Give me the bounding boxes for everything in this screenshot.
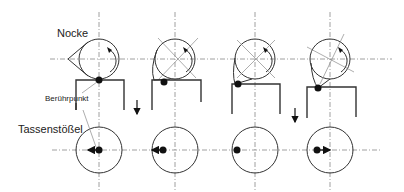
- tappet-label: Tassenstößel: [18, 123, 83, 135]
- tappet-body: [152, 80, 201, 110]
- tappet-body: [307, 87, 356, 118]
- contact-leader-line: [82, 82, 97, 93]
- contact-point-top-dot: [314, 147, 321, 154]
- cam-tappet-diagram: Nocke Berührpunkt Tassenstößel: [0, 0, 404, 192]
- stage-3: [232, 12, 280, 190]
- tappet-body: [232, 84, 280, 114]
- rotation-arrow-icon: [266, 50, 272, 72]
- rotation-arrowhead-icon: [338, 47, 343, 53]
- rotation-arrow-icon: [341, 50, 347, 72]
- contact-point-top-dot: [96, 147, 103, 154]
- rotation-arrow-icon: [110, 50, 116, 72]
- contact-point-top-dot: [234, 147, 241, 154]
- cam-lobe: [234, 58, 253, 84]
- contact-point-dot: [161, 79, 168, 86]
- cam-lobe: [311, 63, 330, 88]
- cam-label: Nocke: [57, 27, 88, 39]
- stage-2: [152, 12, 201, 190]
- tappet-leader-line: [83, 110, 96, 147]
- contact-point-dot: [315, 85, 322, 92]
- cam-diagonal-line: [158, 38, 196, 78]
- cam-lobe: [153, 50, 170, 80]
- rotation-arrowhead-icon: [183, 47, 188, 53]
- stage-4: [307, 12, 356, 190]
- rotation-arrowhead-icon: [107, 47, 112, 53]
- contact-point-top-dot: [160, 147, 167, 154]
- contact-point-label: Berührpunkt: [45, 94, 89, 103]
- contact-point-dot: [235, 81, 242, 88]
